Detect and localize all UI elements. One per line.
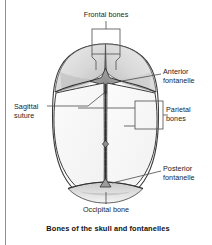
label-parietal-bones: Parietal bones — [166, 106, 191, 123]
label-sagittal-suture: Sagittal suture — [14, 103, 38, 120]
parietal-bone-right — [107, 83, 157, 199]
label-posterior-fontanelle: Posterior fontanelle — [163, 165, 195, 182]
label-parietal-bones-line2: bones — [166, 114, 186, 123]
label-sagittal-suture-line2: suture — [14, 111, 34, 120]
label-anterior-fontanelle: Anterior fontanelle — [163, 68, 195, 85]
label-occipital-bone: Occipital bone — [64, 206, 148, 215]
figure-caption: Bones of the skull and fontanelles — [10, 224, 206, 233]
label-anterior-fontanelle-line2: fontanelle — [163, 76, 195, 85]
figure-page: Frontal bones Anterior fontanelle Sagitt… — [0, 0, 212, 245]
label-posterior-fontanelle-line2: fontanelle — [163, 173, 195, 182]
label-frontal-bones: Frontal bones — [72, 11, 140, 20]
parietal-bone-left — [54, 83, 104, 199]
